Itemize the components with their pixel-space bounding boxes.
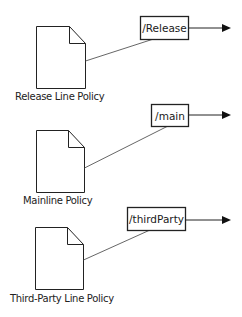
policy-group-release: [37, 27, 86, 89]
branch-box-main[interactable]: /main: [152, 105, 189, 127]
document-icon: [37, 131, 85, 193]
policy-group-mainline: [37, 131, 85, 193]
arrow-right-icon: [189, 24, 232, 32]
branch-box-thirdparty[interactable]: /thirdParty: [128, 208, 186, 231]
policy-label-mainline: Mainline Policy: [23, 195, 92, 206]
policy-group-thirdparty: [36, 228, 84, 290]
connector-line-thirdparty: [84, 230, 151, 260]
codeline-policy-diagram: /Release /main /thirdParty: [0, 0, 242, 317]
document-icon: [37, 27, 86, 89]
branch-label-main: /main: [155, 110, 185, 122]
arrow-right-icon: [186, 216, 232, 224]
connector-line-release: [86, 40, 153, 62]
policy-label-release: Release Line Policy: [15, 91, 104, 102]
connector-line-main: [85, 126, 169, 168]
branch-label-thirdparty: /thirdParty: [129, 213, 184, 225]
policy-label-thirdparty: Third-Party Line Policy: [10, 293, 114, 304]
branch-label-release: /Release: [142, 22, 187, 34]
arrow-right-icon: [189, 111, 232, 119]
branch-box-release[interactable]: /Release: [141, 17, 189, 40]
document-icon: [36, 228, 84, 290]
